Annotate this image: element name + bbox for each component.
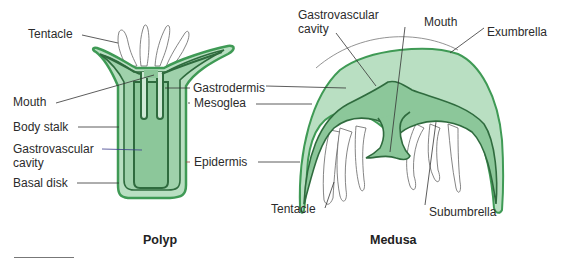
- label-medusa-subumbrella: Subumbrella: [429, 206, 496, 219]
- label-medusa-gastrovascular-cavity-1: Gastrovascular: [298, 9, 379, 22]
- label-medusa-tentacle: Tentacle: [271, 203, 316, 216]
- label-mesoglea: Mesoglea: [194, 97, 246, 110]
- diagram-artwork: [0, 0, 566, 259]
- label-epidermis: Epidermis: [194, 156, 247, 169]
- label-polyp-gastrovascular-cavity-1: Gastrovascular: [13, 143, 94, 156]
- label-polyp-mouth: Mouth: [13, 96, 46, 109]
- medusa-title: Medusa: [370, 233, 417, 247]
- label-medusa-mouth: Mouth: [424, 16, 457, 29]
- polyp-title: Polyp: [143, 233, 177, 247]
- label-polyp-body-stalk: Body stalk: [13, 121, 68, 134]
- polyp-figure: [93, 25, 234, 198]
- label-medusa-exumbrella: Exumbrella: [487, 26, 547, 39]
- cnidarian-body-forms-diagram: Tentacle Mouth Body stalk Gastrovascular…: [0, 0, 566, 259]
- label-medusa-gastrovascular-cavity-2: cavity: [298, 23, 329, 36]
- label-polyp-tentacle: Tentacle: [28, 28, 73, 41]
- label-polyp-gastrovascular-cavity-2: cavity: [13, 157, 44, 170]
- label-gastrodermis: Gastrodermis: [193, 82, 265, 95]
- medusa-figure: [300, 37, 503, 213]
- footnote-rule: [14, 257, 74, 258]
- label-polyp-basal-disk: Basal disk: [13, 177, 68, 190]
